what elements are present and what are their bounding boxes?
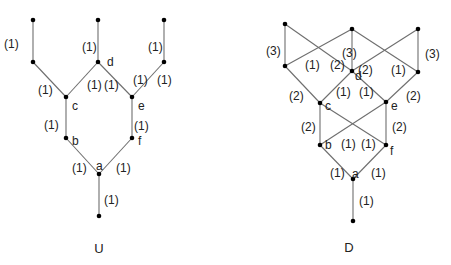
diagram-canvas: dcebfa(1)(1)(1)(1)(1)(1)(1)(1)(1)(1)(1)(… bbox=[0, 0, 451, 265]
edge-weight-label: (2) bbox=[358, 63, 373, 77]
edge-weight-label: (3) bbox=[425, 47, 440, 61]
node-label: d bbox=[107, 55, 114, 69]
node-t1 bbox=[31, 18, 36, 23]
graph-u: dcebfa(1)(1)(1)(1)(1)(1)(1)(1)(1)(1)(1)(… bbox=[4, 18, 172, 256]
edge-weight-label: (3) bbox=[266, 44, 281, 58]
node-label: e bbox=[138, 99, 145, 113]
edge-weight-label: (1) bbox=[359, 85, 374, 99]
edge-weight-label: (1) bbox=[72, 161, 87, 175]
edge-weight-label: (1) bbox=[133, 73, 148, 87]
edge-weight-label: (1) bbox=[336, 85, 351, 99]
edge-weight-label: (1) bbox=[104, 78, 119, 92]
node-label: a bbox=[352, 167, 359, 181]
node-label: b bbox=[72, 134, 79, 148]
edge-weight-label: (1) bbox=[330, 166, 345, 180]
node-e bbox=[130, 95, 135, 100]
graph-caption: D bbox=[344, 240, 353, 255]
node-label: a bbox=[96, 159, 103, 173]
node-m3 bbox=[162, 60, 167, 65]
node-r bbox=[351, 219, 356, 224]
graph-caption: U bbox=[94, 241, 103, 256]
edge-weight-label: (1) bbox=[4, 37, 19, 51]
edge-weight-label: (1) bbox=[82, 40, 97, 54]
node-tm bbox=[350, 27, 355, 32]
edge-weight-label: (1) bbox=[148, 40, 163, 54]
edge-weight-label: (1) bbox=[44, 118, 59, 132]
edge-weight-label: (1) bbox=[87, 78, 102, 92]
edge-weight-label: (1) bbox=[116, 161, 131, 175]
node-b bbox=[318, 143, 323, 148]
node-c bbox=[318, 101, 323, 106]
node-r bbox=[97, 214, 102, 219]
node-label: f bbox=[138, 134, 142, 148]
graph-d: dcebfa(3)(1)(2)(3)(2)(1)(3)(2)(1)(1)(2)(… bbox=[266, 22, 440, 255]
node-label: e bbox=[391, 99, 398, 113]
edge-weight-label: (1) bbox=[361, 137, 376, 151]
node-e bbox=[384, 100, 389, 105]
node-d bbox=[96, 60, 101, 65]
edge-weight-label: (3) bbox=[342, 46, 357, 60]
edge-weight-label: (2) bbox=[289, 89, 304, 103]
edge-weight-label: (1) bbox=[371, 166, 386, 180]
node-label: c bbox=[325, 99, 331, 113]
edge-weight-label: (1) bbox=[104, 193, 119, 207]
node-ml bbox=[283, 64, 288, 69]
edge-weight-label: (2) bbox=[392, 120, 407, 134]
node-f bbox=[384, 143, 389, 148]
edge-weight-label: (1) bbox=[38, 83, 53, 97]
node-b bbox=[64, 136, 69, 141]
edge-weight-label: (1) bbox=[134, 119, 149, 133]
node-c bbox=[64, 95, 69, 100]
node-label: b bbox=[325, 138, 332, 152]
node-label: f bbox=[390, 144, 394, 158]
node-tl bbox=[283, 22, 288, 27]
node-t2 bbox=[96, 18, 101, 23]
node-mr bbox=[416, 70, 421, 75]
edge-weight-label: (1) bbox=[157, 73, 172, 87]
node-label: c bbox=[72, 99, 78, 113]
edge-weight-label: (2) bbox=[330, 58, 345, 72]
node-d bbox=[350, 69, 355, 74]
edge-weight-label: (1) bbox=[391, 63, 406, 77]
node-f bbox=[130, 136, 135, 141]
edge-weight-label: (2) bbox=[301, 120, 316, 134]
edge-weight-label: (1) bbox=[305, 58, 320, 72]
edge-weight-label: (2) bbox=[406, 89, 421, 103]
node-m1 bbox=[31, 60, 36, 65]
edge-weight-label: (1) bbox=[341, 137, 356, 151]
node-tr bbox=[416, 27, 421, 32]
node-t3 bbox=[162, 18, 167, 23]
edge-weight-label: (1) bbox=[359, 194, 374, 208]
